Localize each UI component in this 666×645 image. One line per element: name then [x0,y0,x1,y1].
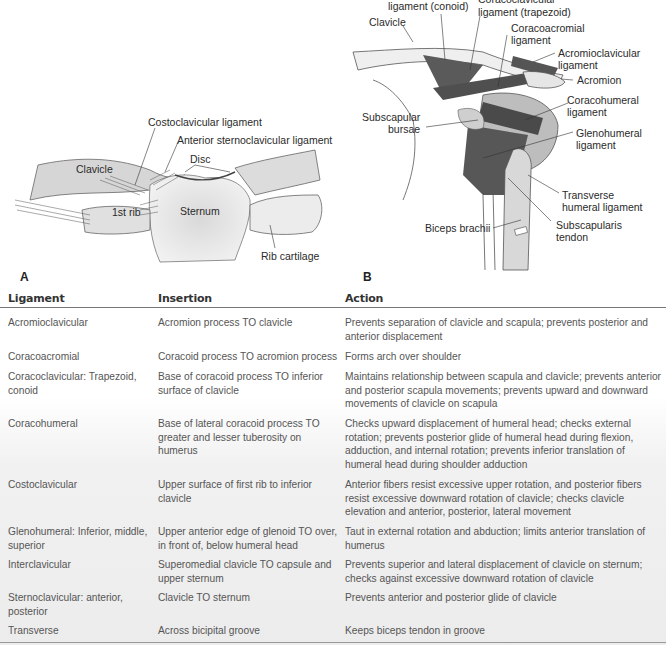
label-coracoacromial-line1: Coracoacromial [511,22,585,34]
cell-action: Keeps biceps tendon in groove [345,624,663,638]
label-transverse-humeral-line2: humeral ligament [562,201,643,213]
header-action: Action [345,292,383,305]
cell-insertion: Upper surface of first rib to inferior c… [158,478,343,505]
cell-insertion: Coracoid process TO acromion process [158,350,343,364]
cell-ligament: Coracoclavicular: Trapezoid, conoid [8,370,158,397]
label-disc: Disc [190,153,210,165]
label-coracohumeral-line2: ligament [567,106,607,118]
header-insertion: Insertion [158,292,212,305]
label-acromioclavicular-line1: Acromioclavicular [558,47,640,59]
cell-ligament: Coracohumeral [8,417,158,431]
label-subscapular-line2: bursae [388,123,420,135]
cell-insertion: Upper anterior edge of glenoid TO over, … [158,525,343,552]
label-biceps-brachii: Biceps brachii [425,222,490,234]
cell-insertion: Across bicipital groove [158,624,343,638]
figure-a-sternoclavicular-joint: Costoclavicular ligament Anterior sterno… [0,0,333,280]
label-subscapular-line1: Subscapular [362,111,420,123]
table-header: Ligament Insertion Action [0,286,666,308]
cell-insertion: Acromion process TO clavicle [158,316,343,330]
cell-action: Prevents separation of clavicle and scap… [345,316,663,343]
cell-ligament: Acromioclavicular [8,316,158,330]
label-glenohumeral-line1: Glenohumeral [576,127,642,139]
label-subscapularis-line2: tendon [556,231,588,243]
cell-action: Forms arch over shoulder [345,350,663,364]
cell-action: Prevents anterior and posterior glide of… [345,591,663,605]
label-clavicle-b: Clavicle [369,16,406,28]
label-coracoclavicular-trapezoid-line1: Coracoclavicular [478,0,556,5]
label-coracoacromial-line2: ligament [511,34,551,46]
cell-ligament: Glenohumeral: Inferior, middle, superior [8,525,158,552]
cell-ligament: Sternoclavicular: anterior, posterior [8,591,158,618]
label-acromioclavicular-line2: ligament [558,59,598,71]
cell-action: Taut in external rotation and abduction;… [345,525,663,552]
cell-ligament: Interclavicular [8,558,158,572]
label-costoclavicular-ligament: Costoclavicular ligament [148,116,262,128]
header-ligament: Ligament [8,292,65,305]
panel-letter-a: A [20,270,29,284]
figure-b-shoulder-ligaments: ligament (conoid) Coracoclavicular ligam… [333,0,666,280]
cell-insertion: Superomedial clavicle TO capsule and upp… [158,558,343,585]
label-coracohumeral-line1: Coracohumeral [567,94,639,106]
table-bottom-rule [0,642,666,643]
figure-area: Costoclavicular ligament Anterior sterno… [0,0,666,280]
cell-insertion: Clavicle TO sternum [158,591,343,605]
label-coracoclavicular-trapezoid-line2: ligament (trapezoid) [478,6,571,18]
label-rib-cartilage: Rib cartilage [261,250,319,262]
cell-ligament: Transverse [8,624,158,638]
cell-ligament: Coracoacromial [8,350,158,364]
cell-insertion: Base of lateral coracoid process TO grea… [158,417,343,458]
cell-action: Anterior fibers resist excessive upper r… [345,478,663,519]
label-clavicle: Clavicle [76,163,113,175]
label-subscapularis-line1: Subscapularis [556,219,622,231]
label-transverse-humeral-line1: Transverse [562,189,614,201]
label-anterior-sternoclavicular-ligament: Anterior sternoclavicular ligament [177,134,332,146]
shoulder-illustration [333,0,666,280]
cell-action: Maintains relationship between scapula a… [345,370,663,411]
label-sternum: Sternum [180,205,220,217]
cell-action: Prevents superior and lateral displaceme… [345,558,663,585]
ligament-table: Ligament Insertion Action Acromioclavicu… [0,286,666,645]
label-coracoclavicular-conoid: ligament (conoid) [388,0,469,12]
cell-action: Checks upward displacement of humeral he… [345,417,663,471]
cell-insertion: Base of coracoid process TO inferior sur… [158,370,343,397]
label-glenohumeral-line2: ligament [576,139,616,151]
cell-ligament: Costoclavicular [8,478,158,492]
panel-letter-b: B [363,270,372,284]
label-acromion: Acromion [577,74,621,86]
label-first-rib: 1st rib [112,206,141,218]
